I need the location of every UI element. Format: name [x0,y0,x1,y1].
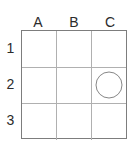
grid-row [22,31,126,67]
grid-cell-b2[interactable] [56,68,91,104]
grid-cell-b3[interactable] [56,104,91,140]
column-header-b: B [64,13,84,31]
grid-cell-a1[interactable] [22,31,56,67]
circle-marker-icon [96,72,123,99]
grid-cell-b1[interactable] [56,31,91,67]
grid-cell-c1[interactable] [91,31,126,67]
grid-row [22,67,126,104]
grid-row [22,103,126,140]
grid-cell-c2[interactable] [91,68,126,104]
grid-board [21,30,127,139]
column-header-a: A [28,13,48,31]
grid-figure: A B C 1 2 3 [0,0,138,144]
column-header-c: C [100,13,120,31]
row-header-2: 2 [2,75,19,93]
grid-cell-a2[interactable] [22,68,56,104]
grid-cell-c3[interactable] [91,104,126,140]
row-header-3: 3 [2,111,19,129]
grid-cell-a3[interactable] [22,104,56,140]
row-header-1: 1 [2,39,19,57]
